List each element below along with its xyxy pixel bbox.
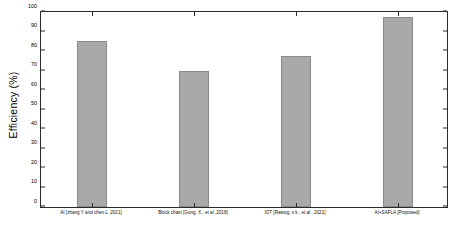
y-axis-title-text: Efficiency (%) bbox=[7, 72, 19, 139]
y-axis-tick-mark bbox=[41, 206, 45, 207]
y-axis-tick-label: 20 bbox=[31, 160, 37, 165]
y-axis-tick-mark bbox=[41, 50, 45, 51]
y-axis-tick-mark bbox=[41, 186, 45, 187]
x-axis-tick-mark bbox=[398, 203, 399, 207]
y-axis-tick-mark bbox=[443, 206, 447, 207]
y-axis-tick-label: 40 bbox=[31, 121, 37, 126]
y-axis-tick-mark bbox=[443, 167, 447, 168]
y-axis-tick-mark bbox=[443, 69, 447, 70]
y-axis-tick-mark bbox=[41, 108, 45, 109]
x-axis-tick-mark bbox=[92, 12, 93, 16]
y-axis-tick-mark bbox=[41, 89, 45, 90]
x-axis-tick-label: AI+SAFLA [Proposed] bbox=[375, 211, 420, 216]
y-axis-tick-mark bbox=[41, 147, 45, 148]
x-axis-tick-mark bbox=[296, 12, 297, 16]
x-axis-tick-mark bbox=[194, 203, 195, 207]
bar bbox=[281, 56, 311, 207]
y-axis-tick-label: 60 bbox=[31, 82, 37, 87]
y-axis-tick-mark bbox=[41, 69, 45, 70]
y-axis-title: Efficiency (%) bbox=[2, 0, 24, 210]
y-axis-tick-mark bbox=[443, 89, 447, 90]
y-axis-tick-mark bbox=[443, 128, 447, 129]
y-axis-tick-mark bbox=[443, 108, 447, 109]
x-axis-tick-label: Block chain [Gong, X., et al ,2018] bbox=[158, 211, 227, 216]
y-axis-tick-mark bbox=[443, 11, 447, 12]
y-axis-tick-mark bbox=[443, 147, 447, 148]
y-axis-tick-mark bbox=[443, 30, 447, 31]
y-axis-tick-mark bbox=[41, 128, 45, 129]
bar bbox=[179, 71, 209, 208]
y-axis-tick-mark bbox=[443, 186, 447, 187]
y-axis-tick-label: 100 bbox=[28, 4, 37, 9]
bar bbox=[77, 41, 107, 207]
bar-chart-figure: Efficiency (%) 0102030405060708090100 AI… bbox=[0, 0, 465, 234]
x-axis-tick-mark bbox=[194, 12, 195, 16]
x-axis-tick-mark bbox=[296, 203, 297, 207]
y-axis-tick-label: 30 bbox=[31, 140, 37, 145]
y-axis-tick-label: 10 bbox=[31, 179, 37, 184]
y-axis-tick-label: 70 bbox=[31, 62, 37, 67]
x-axis-tick-label: IOT [Rastog, s k , et al , 2021] bbox=[265, 211, 326, 216]
bar bbox=[383, 17, 413, 207]
y-axis-tick-label: 0 bbox=[34, 199, 37, 204]
y-axis-tick-label: 50 bbox=[31, 101, 37, 106]
y-axis-tick-mark bbox=[41, 11, 45, 12]
x-axis-tick-label: AI [zhang Y and chen L ,2021] bbox=[60, 211, 121, 216]
y-axis-tick-mark bbox=[41, 167, 45, 168]
x-axis-tick-mark bbox=[398, 12, 399, 16]
x-axis-tick-mark bbox=[92, 203, 93, 207]
plot-box: 0102030405060708090100 bbox=[40, 11, 448, 208]
y-axis-tick-mark bbox=[41, 30, 45, 31]
y-axis-tick-mark bbox=[443, 50, 447, 51]
y-axis-tick-label: 90 bbox=[31, 23, 37, 28]
plot-area: 0102030405060708090100 bbox=[41, 12, 447, 207]
y-axis-tick-label: 80 bbox=[31, 43, 37, 48]
